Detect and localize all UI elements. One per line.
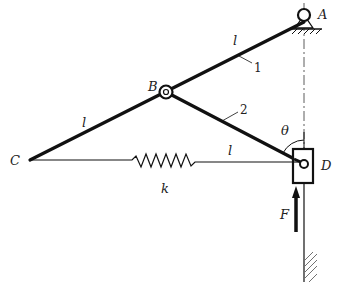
label-l-ab: l <box>233 34 237 47</box>
pin-a <box>298 9 310 21</box>
leader-1 <box>239 56 252 63</box>
mechanism-diagram: A B C D l l l 1 2 θ k F <box>0 0 341 293</box>
label-k: k <box>161 182 169 195</box>
label-bar-1: 1 <box>254 62 262 74</box>
label-d: D <box>321 159 331 172</box>
label-f: F <box>280 208 289 221</box>
label-l-bd: l <box>228 144 232 157</box>
ground-hatch-bottom <box>305 252 317 282</box>
label-theta: θ <box>281 124 289 137</box>
spring-k <box>30 154 304 167</box>
diagram-canvas <box>0 0 341 293</box>
pin-d <box>300 160 308 168</box>
label-b: B <box>148 80 158 93</box>
label-a: A <box>318 8 327 21</box>
leader-2 <box>222 112 238 121</box>
label-l-bc: l <box>82 116 86 129</box>
label-bar-2: 2 <box>240 104 248 116</box>
force-f-arrow <box>292 186 300 232</box>
label-c: C <box>10 154 20 167</box>
